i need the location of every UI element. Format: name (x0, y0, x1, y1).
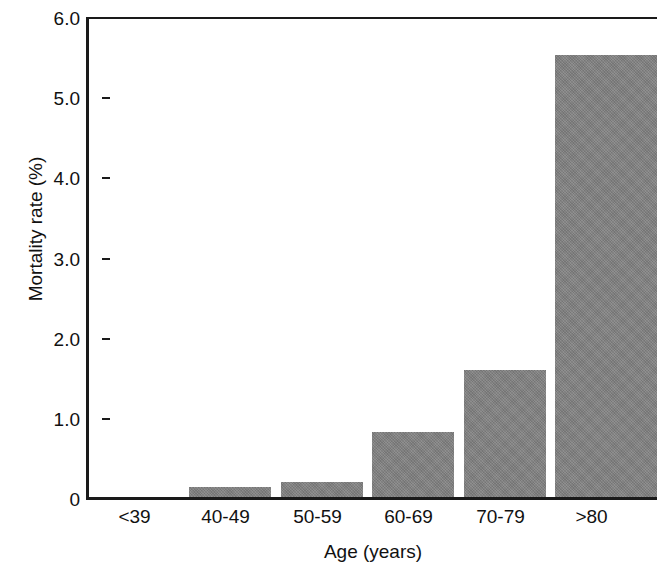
x-tick-label-60-69: 60-69 (363, 506, 454, 529)
bar-40-49 (189, 487, 271, 497)
x-axis-ticks: <39 40-49 50-59 60-69 70-79 >80 (89, 506, 657, 534)
x-tick-label-70-79: 70-79 (455, 506, 546, 529)
mortality-rate-bar-chart: Mortality rate (%) 6.0 5.0 4.0 3.0 2.0 1… (0, 0, 657, 569)
y-tick-label: 0 (28, 490, 80, 509)
y-tick-label: 6.0 (28, 9, 80, 28)
bar-50-59 (281, 482, 363, 497)
y-tick-label: 2.0 (28, 330, 80, 349)
x-tick-label-40-49: 40-49 (180, 506, 271, 529)
x-tick-label-lt39: <39 (89, 506, 180, 529)
bar-60-69 (372, 432, 454, 497)
bar-70-79 (464, 370, 546, 497)
x-tick-label-50-59: 50-59 (272, 506, 363, 529)
x-axis-line (86, 497, 657, 500)
plot-area (89, 19, 657, 497)
bar-gt80 (555, 55, 657, 497)
x-axis-title: Age (years) (89, 541, 657, 563)
y-tick-label: 3.0 (28, 250, 80, 269)
y-tick-label: 4.0 (28, 169, 80, 188)
y-tick-label: 1.0 (28, 410, 80, 429)
y-axis-ticks: 6.0 5.0 4.0 3.0 2.0 1.0 0 (22, 0, 80, 569)
y-tick-label: 5.0 (28, 89, 80, 108)
x-tick-label-gt80: >80 (546, 506, 637, 529)
